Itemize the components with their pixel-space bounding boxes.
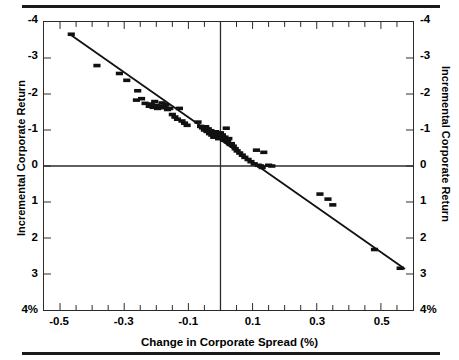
y-tick-label-right: 4% [420,304,437,316]
y-tick-label-left: -1 [28,123,38,135]
bottom-divider-rule [22,352,440,355]
y-tick-label-right: -2 [420,87,430,99]
scatter-plot-svg [44,22,413,310]
data-point-marker [225,137,232,141]
y-tick-label-right: 0 [420,159,426,171]
data-point-marker [253,148,260,152]
x-tick-label: -0.3 [99,315,149,327]
y-tick-label-right: 3 [420,268,426,280]
data-point-marker [329,203,336,207]
data-point-marker [116,72,123,76]
y-tick-label-left: 0 [32,159,38,171]
y-tick-label-right: -3 [420,50,430,62]
data-point-marker [68,32,75,36]
chart-figure: 4%3210-1-2-3-4 4%3210-1-2-3-4 -0.5-0.3-0… [0,0,459,360]
y-axis-title-left: Incremental Corporate Return [15,80,27,236]
y-axis-title-right: Incremental Corporate Return [440,66,452,222]
y-tick-label-left: -3 [28,50,38,62]
plot-area [43,21,414,311]
data-point-marker [316,192,323,196]
data-point-marker [162,103,169,107]
y-tick-label-left: -2 [28,87,38,99]
top-divider-rule [22,5,440,8]
data-point-marker [259,166,266,170]
data-point-marker [371,248,378,252]
x-tick-label: 0.5 [357,315,407,327]
data-point-marker [223,126,230,130]
x-tick-label: -0.5 [34,315,84,327]
data-point-marker [194,120,201,124]
data-point-marker [93,64,100,68]
y-tick-label-right: 1 [420,195,426,207]
x-tick-label: -0.1 [163,315,213,327]
data-point-marker [166,107,173,111]
x-axis-title: Change in Corporate Spread (%) [0,336,459,348]
data-point-marker [268,164,275,168]
data-point-marker [260,151,267,155]
x-tick-label: 0.1 [228,315,278,327]
data-point-marker [184,124,191,128]
data-point-marker [134,89,141,93]
y-tick-label-left: 4% [21,304,38,316]
y-tick-label-left: 3 [32,268,38,280]
data-point-marker [397,266,404,270]
y-tick-label-left: 2 [32,232,38,244]
y-tick-label-left: -4 [28,14,38,26]
x-tick-label: 0.3 [292,315,342,327]
y-tick-label-left: 1 [32,195,38,207]
data-point-marker [123,79,130,83]
data-point-marker [151,100,158,104]
y-tick-label-right: 2 [420,232,426,244]
y-tick-label-right: -1 [420,123,430,135]
data-point-marker [176,107,183,111]
data-point-marker [138,97,145,101]
y-tick-label-right: -4 [420,14,430,26]
data-point-marker [324,197,331,201]
